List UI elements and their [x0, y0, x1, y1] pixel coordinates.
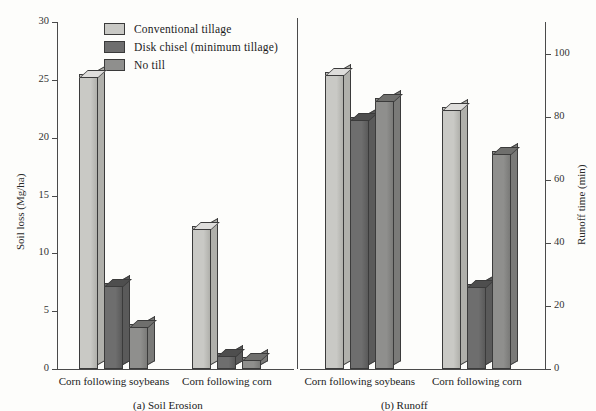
y-axis-title: Runoff time (min)	[575, 165, 587, 245]
figure-canvas: Conventional tillageDisk chisel (minimum…	[0, 0, 596, 411]
legend-item-2: No till	[104, 57, 278, 73]
bar-b-g0-s1	[350, 117, 369, 369]
y-axis-tick	[52, 138, 57, 139]
legend-item-1: Disk chisel (minimum tillage)	[104, 39, 278, 55]
y-axis-tick-label: 5	[11, 305, 49, 315]
bar-a-g1-s0	[192, 226, 211, 369]
bar-front-face	[492, 151, 511, 369]
panel-caption: (a) Soil Erosion	[133, 399, 203, 411]
y-axis-title: Soil loss (Mg/ha)	[14, 174, 26, 250]
legend-label: Disk chisel (minimum tillage)	[134, 41, 278, 53]
bar-front-face	[129, 324, 148, 369]
y-axis-tick	[52, 369, 57, 370]
y-axis-tick-label: 0	[11, 363, 49, 373]
bar-a-g0-s1	[104, 283, 123, 369]
y-axis-tick-label: 25	[11, 74, 49, 84]
x-axis-line	[300, 369, 546, 370]
bar-b-g1-s0	[442, 107, 461, 369]
bar-b-g0-s0	[325, 72, 344, 369]
y-axis-tick	[546, 369, 551, 370]
bar-front-face	[350, 117, 369, 369]
bar-front-face	[325, 72, 344, 369]
bar-front-face	[192, 226, 211, 369]
y-axis-tick-label: 80	[554, 111, 592, 121]
bar-b-g1-s2	[492, 151, 511, 369]
bar-front-face	[104, 283, 123, 369]
bar-b-g0-s2	[375, 98, 394, 369]
legend-label: No till	[134, 59, 165, 71]
y-axis-tick-label: 30	[11, 16, 49, 26]
y-axis-tick	[52, 253, 57, 254]
legend-item-0: Conventional tillage	[104, 21, 278, 37]
y-axis-tick	[546, 180, 551, 181]
bar-side-face	[511, 143, 518, 365]
bar-a-g0-s2	[129, 324, 148, 369]
y-axis-tick	[52, 311, 57, 312]
y-axis-tick	[546, 54, 551, 55]
y-axis-tick	[52, 196, 57, 197]
bar-front-face	[79, 74, 98, 369]
bar-b-g1-s1	[467, 284, 486, 369]
legend-swatch-icon	[104, 23, 125, 35]
panel-divider	[297, 18, 298, 369]
bar-a-g0-s0	[79, 74, 98, 369]
y-axis-tick	[52, 80, 57, 81]
y-axis-tick-label: 20	[11, 132, 49, 142]
bar-front-face	[467, 284, 486, 369]
y-axis-tick-label: 0	[554, 363, 592, 373]
legend-swatch-icon	[104, 41, 125, 53]
y-axis-tick	[546, 306, 551, 307]
bar-front-face	[375, 98, 394, 369]
chart-legend: Conventional tillageDisk chisel (minimum…	[104, 21, 278, 75]
bar-a-g1-s1	[217, 353, 236, 369]
y-axis-tick	[546, 117, 551, 118]
y-axis-line	[57, 22, 58, 370]
legend-label: Conventional tillage	[134, 23, 232, 35]
y-axis-tick	[546, 243, 551, 244]
y-axis-tick	[52, 22, 57, 23]
panel-caption: (b) Runoff	[381, 399, 428, 411]
bar-side-face	[394, 90, 401, 365]
bar-a-g1-s2	[242, 357, 261, 369]
y-axis-tick-label: 20	[554, 300, 592, 310]
bar-side-face	[211, 218, 218, 365]
x-axis-group-label: Corn following corn	[157, 375, 297, 387]
x-axis-group-label: Corn following corn	[407, 375, 547, 387]
y-axis-tick-label: 100	[554, 48, 592, 58]
bar-front-face	[442, 107, 461, 369]
x-axis-line	[56, 369, 294, 370]
y-axis-line	[545, 22, 546, 370]
